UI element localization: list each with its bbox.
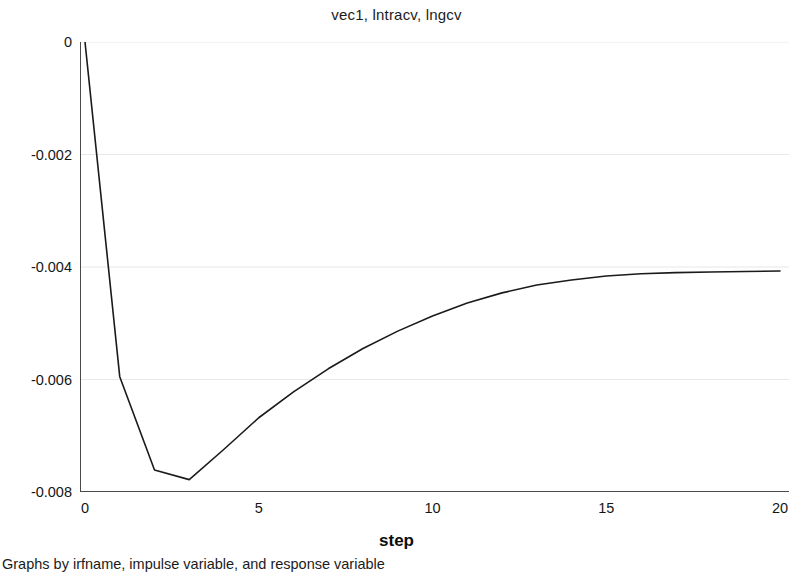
x-tick-label: 10 [403, 500, 463, 516]
figure-note: Graphs by irfname, impulse variable, and… [2, 556, 385, 572]
irf-line-plot [80, 42, 789, 492]
y-tick-label: -0.008 [2, 484, 72, 500]
y-tick-label: 0 [2, 34, 72, 50]
irf-chart-figure: vec1, lntracv, lngcv 0-0.002-0.004-0.006… [0, 0, 793, 577]
y-tick-label: -0.002 [2, 147, 72, 163]
plot-area [80, 42, 789, 492]
y-tick-label: -0.004 [2, 259, 72, 275]
chart-title: vec1, lntracv, lngcv [0, 6, 793, 23]
x-tick-label: 5 [229, 500, 289, 516]
irf-response-line [85, 42, 780, 480]
x-tick-label: 15 [576, 500, 636, 516]
x-tick-label: 0 [55, 500, 115, 516]
y-tick-label: -0.006 [2, 372, 72, 388]
x-tick-label: 20 [750, 500, 793, 516]
x-axis-title: step [0, 531, 793, 551]
x-axis-tick-labels: 05101520 [0, 500, 793, 524]
gridlines [80, 42, 789, 492]
y-axis-tick-labels: 0-0.002-0.004-0.006-0.008 [0, 0, 72, 577]
